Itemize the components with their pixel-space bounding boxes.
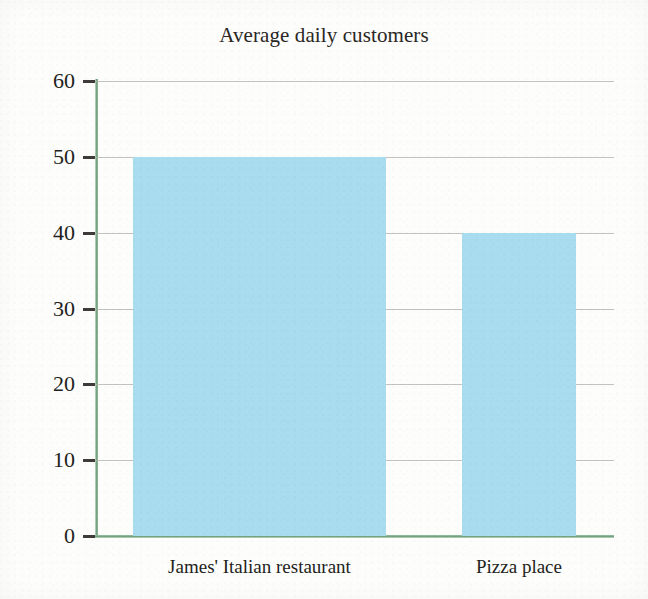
y-axis-tick-label: 50: [53, 144, 75, 170]
y-axis-tick-label: 60: [53, 68, 75, 94]
x-axis-tick-label: James' Italian restaurant: [168, 556, 351, 578]
y-axis-tick-label: 0: [64, 523, 75, 549]
chart-title: Average daily customers: [0, 23, 648, 48]
y-axis-tick-label: 30: [53, 296, 75, 322]
y-axis-tick-label: 40: [53, 220, 75, 246]
plot-area: 0102030405060: [95, 81, 614, 536]
y-axis-tick-mark: [83, 80, 95, 83]
gridline: [95, 81, 614, 82]
y-axis-tick-mark: [83, 232, 95, 235]
y-axis-tick-mark: [83, 535, 95, 538]
bar: [462, 233, 576, 536]
y-axis-tick-mark: [83, 459, 95, 462]
x-axis-tick-label: Pizza place: [476, 556, 562, 578]
y-axis-tick-mark: [83, 156, 95, 159]
y-axis-tick-label: 10: [53, 447, 75, 473]
y-axis-tick-label: 20: [53, 371, 75, 397]
bar: [133, 157, 386, 536]
bar-chart-figure: Average daily customers 0102030405060 Ja…: [0, 0, 648, 599]
y-axis-tick-mark: [83, 308, 95, 311]
y-axis-tick-mark: [83, 383, 95, 386]
